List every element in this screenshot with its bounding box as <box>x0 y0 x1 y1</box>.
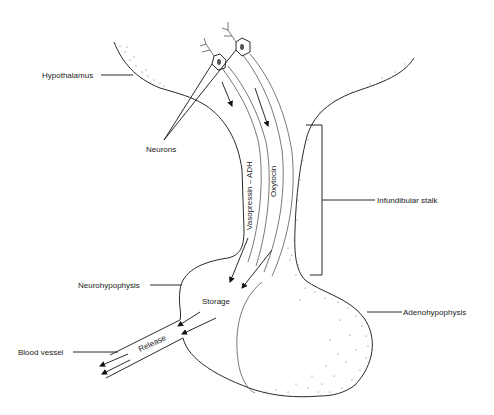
neurons-leader-2 <box>164 50 236 140</box>
label-release: Release <box>137 333 168 354</box>
label-storage: Storage <box>202 297 231 306</box>
label-blood-vessel: Blood vessel <box>18 348 64 357</box>
label-infundibular-stalk: Infundibular stalk <box>377 196 438 205</box>
label-adenohypophysis: Adenohypophysis <box>403 308 466 317</box>
adh-flow-arrow <box>222 82 232 106</box>
neurons-leader-1 <box>164 64 212 140</box>
neuron-cell-1 <box>200 38 226 70</box>
infundibular-stalk-bracket <box>306 125 375 275</box>
posterior-lobe-bottom <box>183 338 320 397</box>
lobe-divider <box>237 282 262 393</box>
vessel-arrow-2 <box>102 360 130 374</box>
adenohypophysis-stipple <box>265 63 405 392</box>
oxytocin-storage-arrow <box>242 250 272 288</box>
hypothalamus-outline <box>114 42 244 258</box>
release-arrow-1 <box>178 312 200 326</box>
label-neurons: Neurons <box>146 145 176 154</box>
neuron-cell-2 <box>222 22 250 56</box>
label-neurohypophysis: Neurohypophysis <box>78 281 140 290</box>
label-oxytocin: Oxytocin <box>269 166 278 197</box>
vessel-arrow-1 <box>100 354 128 366</box>
label-hypothalamus: Hypothalamus <box>42 71 93 80</box>
neurohypophysis-outline <box>110 258 228 355</box>
oxytocin-tract-inner <box>250 54 293 276</box>
label-vasopressin-adh: Vasopressin – ADH <box>245 161 254 230</box>
hypothalamus-stipple <box>119 45 164 86</box>
pituitary-diagram: Hypothalamus Neurons Vasopressin – ADH O… <box>0 0 494 415</box>
adh-storage-arrow <box>230 238 248 282</box>
stalk-right-outline <box>295 58 414 396</box>
